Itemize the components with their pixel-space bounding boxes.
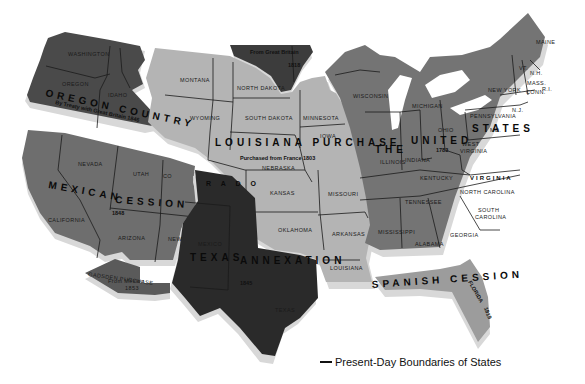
state-montana: MONTANA	[180, 77, 210, 83]
label-great-britain-note: From Great Britain	[250, 49, 299, 55]
state-vermont: VT.	[519, 65, 528, 71]
state-oregon: OREGON	[62, 81, 89, 87]
state-new-hampshire: N.H.	[530, 70, 543, 76]
state-nevada: NEVADA	[78, 161, 103, 167]
map-legend: Present-Day Boundaries of States	[320, 356, 501, 368]
label-great-britain-year: 1818	[288, 62, 300, 68]
territorial-growth-map: OREGON COUNTRY By Treaty with Great Brit…	[0, 0, 585, 384]
state-maine: MAINE	[536, 39, 555, 45]
label-the: THE	[375, 144, 407, 155]
state-wisconsin: WISCONSIN	[353, 93, 388, 99]
state-new-mexico-east: MEXICO	[198, 241, 222, 247]
state-ohio: OHIO	[438, 127, 454, 133]
state-louisiana: LOUISIANA	[330, 265, 363, 271]
state-nebraska: NEBRASKA	[262, 165, 295, 171]
state-california: CALIFORNIA	[48, 217, 85, 223]
state-texas: TEXAS	[275, 307, 295, 313]
state-oklahoma: OKLAHOMA	[278, 227, 312, 233]
state-michigan: MICHIGAN	[412, 103, 443, 109]
state-wyoming: WYOMING	[190, 115, 220, 121]
state-new-jersey: N.J.	[512, 107, 523, 113]
state-kansas: KANSAS	[270, 190, 295, 196]
state-new-york: NEW YORK	[488, 87, 521, 93]
label-mexican-year: 1848	[112, 210, 124, 216]
state-illinois: ILLINOIS	[380, 159, 406, 165]
state-south-dakota: SOUTH DAKOTA	[245, 115, 293, 121]
state-new-mexico-west: NEW	[168, 236, 182, 242]
state-georgia: GEORGIA	[450, 232, 478, 238]
state-utah: UTAH	[133, 171, 149, 177]
state-washington: WASHINGTON	[68, 51, 110, 57]
state-pennsylvania: PENNSYLVANIA	[470, 113, 516, 119]
label-us-year: 1783	[436, 147, 448, 153]
state-indiana: INDIANA	[405, 157, 430, 163]
state-mississippi: MISSISSIPPI	[378, 229, 415, 235]
legend-label: Present-Day Boundaries of States	[335, 356, 501, 368]
label-states: STATES	[472, 123, 534, 134]
state-maryland: MD.	[490, 127, 501, 133]
label-gadsden-year: 1853	[125, 285, 139, 291]
state-west-virginia-1: WEST	[462, 141, 480, 147]
state-north-dakota: NORTH DAKOTA	[237, 85, 285, 91]
state-west-virginia-2: VIRGINIA	[460, 148, 487, 154]
state-arkansas: ARKANSAS	[332, 231, 365, 237]
state-south-carolina-2: CAROLINA	[475, 214, 506, 220]
state-colorado-1: CO	[163, 173, 172, 179]
label-louisiana-purchase: LOUISIANA PURCHASE	[215, 137, 401, 148]
state-arizona: ARIZONA	[118, 235, 145, 241]
state-missouri: MISSOURI	[328, 191, 358, 197]
state-virginia: VIRGINIA	[470, 175, 513, 181]
state-iowa: IOWA	[320, 133, 336, 139]
state-minnesota: MINNESOTA	[303, 115, 339, 121]
state-rhode-island: R.I.	[542, 86, 552, 92]
label-gadsden-note: From Mexico	[108, 278, 144, 284]
state-tennessee: TENNESSEE	[405, 199, 442, 205]
label-texas-year: 1845	[240, 280, 252, 286]
label-texas: TEXAS	[190, 252, 243, 263]
state-north-carolina: NORTH CAROLINA	[460, 189, 515, 195]
state-kentucky: KENTUCKY	[420, 175, 453, 181]
label-louisiana-note: Purchased from France 1803	[240, 155, 315, 161]
boundary-line-icon	[320, 361, 332, 363]
state-alabama: ALABAMA	[415, 241, 444, 247]
state-colorado-2: R A D O	[206, 180, 260, 187]
state-south-carolina-1: SOUTH	[478, 207, 499, 213]
state-idaho: IDAHO	[108, 92, 128, 98]
